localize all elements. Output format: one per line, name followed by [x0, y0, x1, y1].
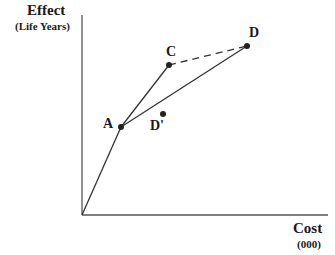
cea-diagram: [0, 0, 335, 255]
c-to-d-dashed-line: [169, 46, 247, 65]
y-axis-subtitle: (Life Years): [15, 20, 70, 32]
a-to-d-line: [121, 46, 247, 127]
x-axis-title: Cost: [293, 220, 322, 237]
point-dprime-label: D': [150, 118, 164, 134]
point-c-marker: [166, 62, 172, 68]
point-a-marker: [118, 124, 124, 130]
x-axis-subtitle: (000): [297, 238, 321, 250]
point-a-label: A: [103, 116, 113, 132]
point-dprime-marker: [160, 111, 166, 117]
point-d-marker: [244, 43, 250, 49]
y-axis-title: Effect: [27, 2, 65, 19]
origin-to-a-line: [82, 127, 121, 215]
point-d-label: D: [249, 25, 259, 41]
point-c-label: C: [166, 44, 176, 60]
